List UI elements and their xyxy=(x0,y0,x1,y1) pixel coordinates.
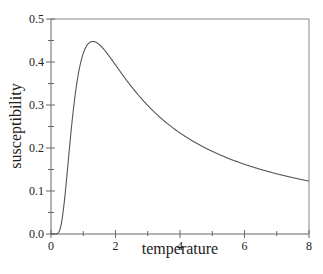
susceptibility-chart: 02468 0.00.10.20.30.40.5 temperature sus… xyxy=(0,0,323,274)
plot-frame xyxy=(51,19,309,234)
y-tick-label: 0.3 xyxy=(29,98,44,112)
x-axis-label: temperature xyxy=(142,240,218,258)
x-tick-label: 6 xyxy=(242,239,248,253)
x-tick-label: 0 xyxy=(48,239,54,253)
y-tick-label: 0.4 xyxy=(29,55,44,69)
y-tick-label: 0.1 xyxy=(29,184,44,198)
y-tick-label: 0.0 xyxy=(29,227,44,241)
susceptibility-curve xyxy=(51,41,309,234)
y-tick-label: 0.5 xyxy=(29,12,44,26)
y-axis-label: susceptibility xyxy=(7,83,25,168)
x-tick-label: 8 xyxy=(306,239,312,253)
y-tick-label: 0.2 xyxy=(29,141,44,155)
x-tick-label: 2 xyxy=(113,239,119,253)
